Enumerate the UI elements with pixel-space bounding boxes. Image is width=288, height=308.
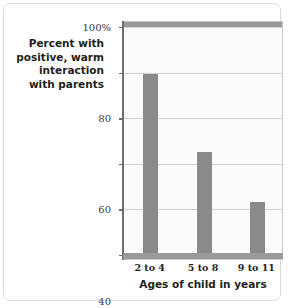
x-axis-category-label: 9 to 11 bbox=[238, 262, 275, 273]
bar bbox=[197, 152, 212, 259]
x-axis-category-label: 2 to 4 bbox=[134, 262, 165, 273]
chart-card: Percent with positive, warm interaction … bbox=[3, 3, 281, 301]
y-axis-line bbox=[122, 21, 124, 260]
y-axis-caption-line: interaction bbox=[12, 64, 104, 78]
y-axis-caption-line: positive, warm bbox=[12, 51, 104, 65]
bar bbox=[143, 74, 158, 259]
x-axis-baseline bbox=[123, 253, 283, 259]
y-axis-caption-line: with parents bbox=[12, 78, 104, 92]
y-axis-tick-label: 80 bbox=[98, 113, 111, 124]
x-axis-category-label: 5 to 8 bbox=[188, 262, 219, 273]
y-axis-caption: Percent with positive, warm interaction … bbox=[12, 37, 104, 91]
x-axis-title: Ages of child in years bbox=[123, 278, 283, 290]
y-axis-tick-label: 100% bbox=[82, 22, 111, 33]
y-axis-tick-label: 40 bbox=[98, 295, 111, 306]
y-axis-caption-line: Percent with bbox=[12, 37, 104, 51]
plot-area: 020406080100% bbox=[123, 21, 283, 260]
gridline bbox=[124, 27, 282, 28]
y-axis-tick-label: 60 bbox=[98, 204, 111, 215]
bar bbox=[250, 202, 265, 259]
plot-inner: 020406080100% bbox=[124, 27, 282, 259]
